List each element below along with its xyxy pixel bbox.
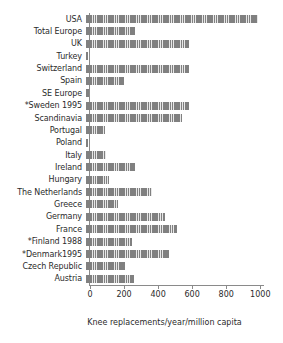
x-tick-label: 800 <box>219 290 234 299</box>
category-label: *Sweden 1995 <box>0 101 86 110</box>
bar-track <box>86 223 283 235</box>
category-label: Poland <box>0 138 86 147</box>
category-label: Switzerland <box>0 64 86 73</box>
x-tick-label: 400 <box>150 290 165 299</box>
bar-track <box>86 211 283 223</box>
category-label: Greece <box>0 200 86 209</box>
knee-replacement-bar-chart: USATotal EuropeUKTurkeySwitzerlandSpainS… <box>0 0 283 343</box>
bar-row: Ireland <box>0 161 283 173</box>
category-label: Portugal <box>0 126 86 135</box>
category-label: Austria <box>0 274 86 283</box>
bar-track <box>86 248 283 260</box>
bar-row: Czech Republic <box>0 260 283 272</box>
x-tick-label: 200 <box>116 290 131 299</box>
bar-track <box>86 38 283 50</box>
bar-row: UK <box>0 38 283 50</box>
bar <box>86 89 89 97</box>
bar-row: Turkey <box>0 50 283 62</box>
category-label: SE Europe <box>0 89 86 98</box>
bar <box>86 15 258 23</box>
category-label: Hungary <box>0 175 86 184</box>
bar-row: Scandinavia <box>0 112 283 124</box>
bar-track <box>86 260 283 272</box>
bar-track <box>86 13 283 25</box>
x-axis-title: Knee replacements/year/million capita <box>0 318 283 328</box>
category-label: UK <box>0 39 86 48</box>
bar <box>86 163 135 171</box>
category-label: Germany <box>0 212 86 221</box>
bar-row: *Denmark1995 <box>0 248 283 260</box>
category-label: Turkey <box>0 52 86 61</box>
bar-track <box>86 137 283 149</box>
bar <box>86 225 177 233</box>
bar <box>86 126 105 134</box>
bar-track <box>86 174 283 186</box>
bar-track <box>86 50 283 62</box>
bar <box>86 200 118 208</box>
bar-track <box>86 198 283 210</box>
bar-row: The Netherlands <box>0 186 283 198</box>
x-axis-ticks: 02004006008001000 <box>0 285 283 299</box>
category-label: USA <box>0 15 86 24</box>
bar <box>86 114 182 122</box>
category-label: *Denmark1995 <box>0 250 86 259</box>
category-label: Ireland <box>0 163 86 172</box>
bar <box>86 188 152 196</box>
bar-row: Total Europe <box>0 25 283 37</box>
bar-track <box>86 75 283 87</box>
bar-row: *Sweden 1995 <box>0 100 283 112</box>
bar-track <box>86 25 283 37</box>
bar <box>86 77 124 85</box>
bar <box>86 275 134 283</box>
bar-row: Austria <box>0 273 283 285</box>
bar-row: Hungary <box>0 174 283 186</box>
x-tick <box>158 285 159 289</box>
category-label: The Netherlands <box>0 188 86 197</box>
bar-track <box>86 149 283 161</box>
category-label: Czech Republic <box>0 262 86 271</box>
bar-row: Switzerland <box>0 62 283 74</box>
bar-row: Italy <box>0 149 283 161</box>
bar <box>86 238 132 246</box>
x-tick <box>226 285 227 289</box>
category-label: Scandinavia <box>0 114 86 123</box>
bar-track <box>86 124 283 136</box>
category-label: Spain <box>0 76 86 85</box>
category-label: Total Europe <box>0 27 86 36</box>
bar-row: USA <box>0 13 283 25</box>
bar-track <box>86 273 283 285</box>
bar <box>86 102 189 110</box>
bar-row: Portugal <box>0 124 283 136</box>
x-tick <box>90 285 91 289</box>
x-tick <box>260 285 261 289</box>
bar <box>86 151 106 159</box>
category-label: *Finland 1988 <box>0 237 86 246</box>
bar-track <box>86 235 283 247</box>
bar-row: France <box>0 223 283 235</box>
bar-track <box>86 87 283 99</box>
bar-row: *Finland 1988 <box>0 235 283 247</box>
x-tick <box>192 285 193 289</box>
bar <box>86 52 88 60</box>
bar <box>86 262 125 270</box>
x-tick-label: 0 <box>87 290 92 299</box>
category-label: France <box>0 225 86 234</box>
bar <box>86 213 165 221</box>
bar <box>86 40 189 48</box>
x-tick-label: 600 <box>185 290 200 299</box>
bar-rows: USATotal EuropeUKTurkeySwitzerlandSpainS… <box>0 13 283 285</box>
bar-track <box>86 62 283 74</box>
bar-track <box>86 161 283 173</box>
bar <box>86 139 88 147</box>
x-tick-label: 1000 <box>250 290 270 299</box>
bar-track <box>86 186 283 198</box>
bar-row: Poland <box>0 137 283 149</box>
bar-track <box>86 100 283 112</box>
x-tick <box>124 285 125 289</box>
bar <box>86 176 109 184</box>
bar-row: SE Europe <box>0 87 283 99</box>
bar-row: Germany <box>0 211 283 223</box>
bar <box>86 65 189 73</box>
bar <box>86 27 135 35</box>
bar <box>86 250 169 258</box>
